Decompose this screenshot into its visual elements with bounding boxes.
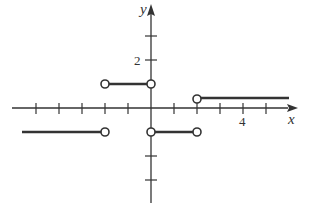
x-tick-label-4: 4 [239, 114, 246, 129]
open-circle-icon [147, 80, 155, 88]
x-axis-label: x [287, 111, 295, 127]
open-circle-icon [101, 80, 109, 88]
y-axis [147, 4, 155, 203]
open-circle-icon [193, 128, 201, 136]
open-circle-icon [193, 95, 201, 103]
x-axis [12, 104, 298, 112]
y-tick-label-2: 2 [134, 53, 141, 68]
y-axis-label: y [138, 1, 147, 17]
step-function-graph: y x 4 2 [0, 0, 310, 207]
open-circle-icon [147, 128, 155, 136]
open-circle-icon [101, 128, 109, 136]
